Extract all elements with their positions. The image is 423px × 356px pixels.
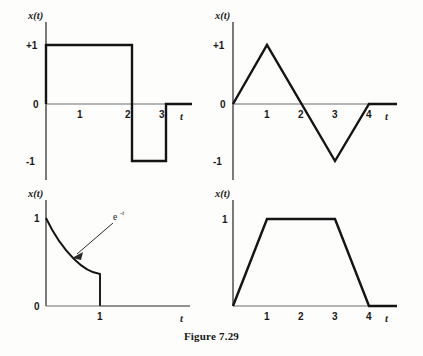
y-axis-label: x(t) [214, 10, 230, 22]
y-tick-label-1: 1 [34, 213, 40, 224]
x-tick-label-2: 2 [298, 311, 304, 322]
x-tick-label-1: 1 [264, 311, 270, 322]
x-tick-label-3: 3 [159, 109, 165, 120]
x-tick-label-2: 2 [125, 109, 131, 120]
panel-bottom-left: e -t x(t) t 1 0 1 [20, 186, 210, 336]
x-tick-label-4: 4 [366, 311, 372, 322]
annotation-arrow-line [77, 223, 113, 254]
y-tick-label-zero: 0 [33, 99, 39, 110]
signal-curve [46, 218, 100, 306]
y-axis-label: x(t) [27, 10, 43, 22]
x-axis-label: t [385, 111, 389, 122]
figure-sheet: x(t) t +1 0 -1 1 2 3 x(t) t +1 0 -1 [0, 0, 423, 356]
y-tick-label-1: 1 [222, 214, 228, 225]
x-tick-label-1: 1 [97, 311, 103, 322]
y-tick-label-plus1: +1 [213, 40, 225, 51]
signal-curve [233, 219, 397, 306]
annotation-label: e [113, 212, 117, 222]
x-tick-label-2: 2 [298, 109, 304, 120]
y-tick-label-minus1: -1 [213, 156, 222, 167]
y-tick-label-zero: 0 [220, 99, 226, 110]
panel-top-left: x(t) t +1 0 -1 1 2 3 [20, 8, 210, 188]
y-tick-label-minus1: -1 [26, 156, 35, 167]
y-axis-label: x(t) [214, 188, 230, 200]
signal-curve [233, 45, 397, 161]
panel-top-right: x(t) t +1 0 -1 1 2 3 4 [211, 8, 411, 188]
x-axis-label: t [180, 313, 184, 324]
x-axis-label: t [385, 313, 389, 324]
y-tick-label-plus1: +1 [26, 40, 38, 51]
x-tick-label-3: 3 [332, 311, 338, 322]
y-tick-label-zero: 0 [34, 301, 40, 312]
panel-bottom-right: x(t) t 1 1 2 3 4 [211, 186, 411, 336]
x-tick-label-1: 1 [77, 109, 83, 120]
y-axis-label: x(t) [27, 188, 43, 200]
annotation-label-exponent: -t [120, 209, 125, 217]
signal-curve [46, 45, 192, 161]
x-tick-label-1: 1 [264, 109, 270, 120]
x-tick-label-3: 3 [332, 109, 338, 120]
x-tick-label-4: 4 [366, 109, 372, 120]
x-axis-label: t [180, 111, 184, 122]
figure-caption: Figure 7.29 [0, 330, 423, 342]
